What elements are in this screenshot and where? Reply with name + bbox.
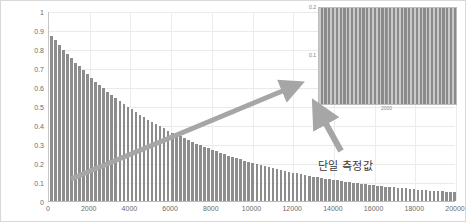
x-axis-tick-label: 18000	[405, 205, 424, 212]
y-axis-tick-label: 0.1	[34, 180, 44, 187]
y-axis-tick-label: 0.2	[34, 161, 44, 168]
y-axis-tick-labels: 00.10.20.30.40.50.60.70.80.91	[25, 12, 44, 202]
y-axis-tick-label: 1	[40, 9, 44, 16]
inset-bar	[454, 8, 456, 104]
x-axis-tick-label: 4000	[122, 205, 138, 212]
y-axis-tick-label: 0.8	[34, 47, 44, 54]
y-axis-tick-label: 0.4	[34, 123, 44, 130]
chart-screenshot: 00.10.20.30.40.50.60.70.80.91 0200040006…	[0, 0, 466, 222]
x-axis-tick-label: 2000	[81, 205, 97, 212]
inset-y-axis-tick-label: 0.1	[309, 53, 316, 58]
x-axis-tick-label: 6000	[162, 205, 178, 212]
inset-y-axis-tick-label: 0.2	[309, 5, 316, 10]
x-axis-tick-label: 20000	[445, 205, 464, 212]
x-axis-tick-labels: 0200040006000800010000120001400016000180…	[48, 205, 455, 215]
inset-x-axis-tick-label: 0	[317, 106, 320, 111]
inset-x-axis-tick-label: 2000	[381, 106, 392, 111]
y-axis-tick-label: 0.3	[34, 142, 44, 149]
x-axis-tick-label: 8000	[203, 205, 219, 212]
y-axis-tick-label: 0.6	[34, 85, 44, 92]
x-axis-tick-label: 12000	[282, 205, 301, 212]
inset-y-axis-tick-labels: 00.10.2	[296, 7, 316, 105]
x-axis-tick-label: 16000	[364, 205, 383, 212]
y-axis-tick-label: 0.7	[34, 66, 44, 73]
y-axis-tick-label: 0.9	[34, 28, 44, 35]
inset-x-axis-tick-labels: 02000	[318, 106, 457, 114]
y-axis-tick-label: 0.5	[34, 104, 44, 111]
single-measurement-label: 단일 측정값	[318, 157, 373, 173]
inset-y-axis-tick-label: 0	[313, 101, 316, 106]
inset-plot-area	[318, 7, 457, 105]
inset-zoom-chart: 00.10.2 02000	[296, 5, 464, 117]
bar	[452, 192, 456, 201]
x-axis-tick-label: 0	[46, 205, 50, 212]
x-axis-tick-label: 10000	[242, 205, 261, 212]
x-axis-tick-label: 14000	[323, 205, 342, 212]
y-axis-tick-label: 0	[40, 199, 44, 206]
